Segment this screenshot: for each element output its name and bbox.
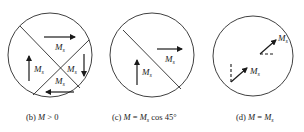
panel-c: Ms Ms (c) M = Ms cos 45°: [110, 13, 194, 123]
caption-c: (c) M = Ms cos 45°: [112, 112, 177, 123]
ms-label: Ms: [164, 54, 176, 65]
ms-label: Ms: [249, 66, 261, 77]
caption-d: (d) M = Ms: [236, 112, 274, 123]
panel-d: Ms Ms (d) M = Ms: [213, 16, 293, 123]
ms-label: Ms: [66, 64, 78, 75]
domain-circle: [110, 13, 194, 97]
ms-label: Ms: [33, 64, 45, 75]
ms-label: Ms: [54, 42, 66, 53]
domain-circle: [8, 13, 92, 97]
arrow-diagonal-icon: [260, 40, 276, 54]
caption-b: (b) M > 0: [26, 112, 58, 122]
arrow-diagonal-icon: [231, 68, 247, 82]
magnetization-domain-diagram: Ms Ms Ms Ms (b) M > 0 Ms Ms (c) M = Ms c…: [0, 0, 304, 132]
domain-circle: [213, 16, 293, 96]
ms-label: Ms: [141, 67, 153, 78]
ms-label: Ms: [54, 76, 66, 87]
panel-b: Ms Ms Ms Ms (b) M > 0: [8, 13, 92, 122]
